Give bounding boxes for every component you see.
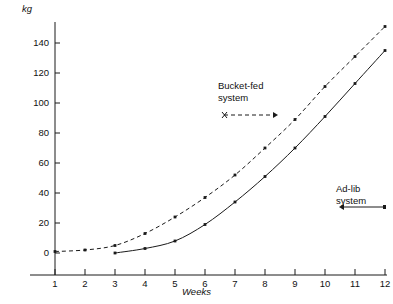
data-point-marker: [324, 115, 327, 118]
data-point-marker: [114, 252, 117, 255]
x-tick-label: 1: [46, 278, 64, 289]
data-point-marker: [384, 49, 387, 52]
x-tick-label: 2: [76, 278, 94, 289]
series-bucket-fed: [54, 25, 387, 253]
data-point-marker: [234, 201, 237, 204]
data-point-marker: [324, 85, 327, 88]
annotation-bucket-fed: Bucket-fed system: [218, 80, 263, 103]
x-tick-label: 9: [286, 278, 304, 289]
x-tick-label: 11: [346, 278, 364, 289]
x-tick-label: 7: [226, 278, 244, 289]
series-line: [55, 27, 385, 252]
data-point-marker: [384, 25, 387, 28]
data-point-marker: [354, 82, 357, 85]
data-point-marker: [84, 249, 87, 252]
data-point-marker: [354, 55, 357, 58]
data-point-marker: [144, 247, 147, 250]
data-point-marker: [144, 232, 147, 235]
y-tick-label: 120: [25, 67, 49, 78]
y-tick-label: 40: [25, 187, 49, 198]
annotation-ad-lib: Ad-lib system: [336, 183, 366, 206]
x-tick-label: 3: [106, 278, 124, 289]
x-tick-label: 6: [196, 278, 214, 289]
data-point-marker: [114, 244, 117, 247]
y-tick-label: 20: [25, 217, 49, 228]
chart-figure: kg Weeks 020406080100120140 123456789101…: [0, 0, 393, 304]
data-point-marker: [294, 118, 297, 121]
data-point-marker: [294, 147, 297, 150]
annotation-bucket-fed-line2: system: [218, 92, 263, 104]
y-axis-ticks: [55, 43, 60, 253]
bucket-fed-pointer-icon: [222, 112, 278, 118]
annotation-ad-lib-line2: system: [336, 195, 366, 207]
y-axis-title: kg: [22, 3, 32, 14]
y-tick-label: 140: [25, 37, 49, 48]
x-tick-label: 5: [166, 278, 184, 289]
data-point-marker: [204, 196, 207, 199]
x-tick-label: 12: [376, 278, 393, 289]
annotation-ad-lib-line1: Ad-lib: [336, 183, 366, 195]
data-point-marker: [264, 175, 267, 178]
chart-plot-area: [0, 0, 393, 304]
x-tick-label: 10: [316, 278, 334, 289]
x-axis-ticks: [55, 269, 385, 275]
data-point-marker: [204, 223, 207, 226]
data-point-marker: [174, 216, 177, 219]
x-tick-label: 8: [256, 278, 274, 289]
data-point-marker: [234, 174, 237, 177]
y-tick-label: 60: [25, 157, 49, 168]
y-tick-label: 80: [25, 127, 49, 138]
data-point-marker: [54, 250, 57, 253]
annotation-bucket-fed-line1: Bucket-fed: [218, 80, 263, 92]
x-tick-label: 4: [136, 278, 154, 289]
y-tick-label: 100: [25, 97, 49, 108]
data-point-marker: [264, 147, 267, 150]
y-tick-label: 0: [25, 247, 49, 258]
data-point-marker: [174, 240, 177, 243]
